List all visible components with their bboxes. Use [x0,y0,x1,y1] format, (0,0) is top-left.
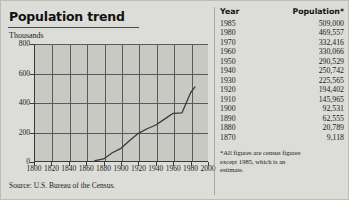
x-tick-mark [156,162,157,166]
column-divider [214,7,215,195]
cell-year: 1870 [220,133,260,143]
cell-year: 1940 [220,66,260,76]
cell-population: 290,529 [260,57,344,67]
table-row: 1960330,066 [220,47,344,57]
table-row: 189062,555 [220,114,344,124]
table-row: 1980469,557 [220,28,344,38]
infographic-panel: Population trend Thousands 0200400600800… [0,0,349,200]
table-row: 190092,531 [220,104,344,114]
cell-population: 92,531 [260,104,344,114]
x-tick-mark [191,162,192,166]
cell-year: 1980 [220,28,260,38]
cell-year: 1880 [220,123,260,133]
cell-population: 469,557 [260,28,344,38]
data-table: Year Population* 1985509,0001980469,5571… [220,8,344,142]
cell-year: 1930 [220,76,260,86]
cell-year: 1890 [220,114,260,124]
cell-population: 250,742 [260,66,344,76]
x-tick-mark [173,162,174,166]
table-row: 1930225,565 [220,76,344,86]
x-tick-mark [208,162,209,166]
population-trend-chart: Thousands 020040060080018001820184018601… [1,29,213,189]
table-row: 1910145,965 [220,95,344,105]
page-title: Population trend [9,9,125,24]
column-header-population: Population* [260,8,344,19]
cell-population: 9,118 [260,133,344,143]
cell-year: 1920 [220,85,260,95]
y-tick-label: 400 [9,99,30,107]
cell-population: 225,565 [260,76,344,86]
x-tick-mark [121,162,122,166]
cell-year: 1910 [220,95,260,105]
table-body: 1985509,0001980469,5571970332,4161960330… [220,19,344,143]
table-row: 1985509,000 [220,19,344,29]
table-header-row: Year Population* [220,8,344,19]
cell-year: 1970 [220,38,260,48]
x-tick-label: 2000 [196,165,220,173]
cell-year: 1985 [220,19,260,29]
table-row: 1940250,742 [220,66,344,76]
source-note: Source: U.S. Bureau of the Census. [9,181,115,190]
table-footnote: *All figures are census figures except 1… [220,149,302,175]
table-row: 1920194,402 [220,85,344,95]
cell-population: 332,416 [260,38,344,48]
x-tick-mark [69,162,70,166]
column-header-year: Year [220,8,260,19]
x-tick-mark [138,162,139,166]
cell-year: 1960 [220,47,260,57]
cell-year: 1950 [220,57,260,67]
y-tick-mark [30,103,34,104]
x-tick-mark [34,162,35,166]
cell-population: 145,965 [260,95,344,105]
cell-population: 330,066 [260,47,344,57]
x-tick-mark [86,162,87,166]
table-row: 1950290,529 [220,57,344,67]
y-tick-mark [30,133,34,134]
table-row: 18709,118 [220,133,344,143]
y-tick-mark [30,74,34,75]
chart-series-line [34,44,208,162]
cell-population: 509,000 [260,19,344,29]
y-tick-label: 200 [9,129,30,137]
cell-year: 1900 [220,104,260,114]
cell-population: 194,402 [260,85,344,95]
x-tick-mark [104,162,105,166]
y-tick-mark [30,44,34,45]
cell-population: 20,789 [260,123,344,133]
table-row: 188020,789 [220,123,344,133]
population-table: Year Population* 1985509,0001980469,5571… [220,8,344,175]
table-row: 1970332,416 [220,38,344,48]
x-tick-mark [51,162,52,166]
cell-population: 62,555 [260,114,344,124]
y-tick-label: 800 [9,40,30,48]
y-tick-label: 600 [9,70,30,78]
title-divider [8,27,139,28]
